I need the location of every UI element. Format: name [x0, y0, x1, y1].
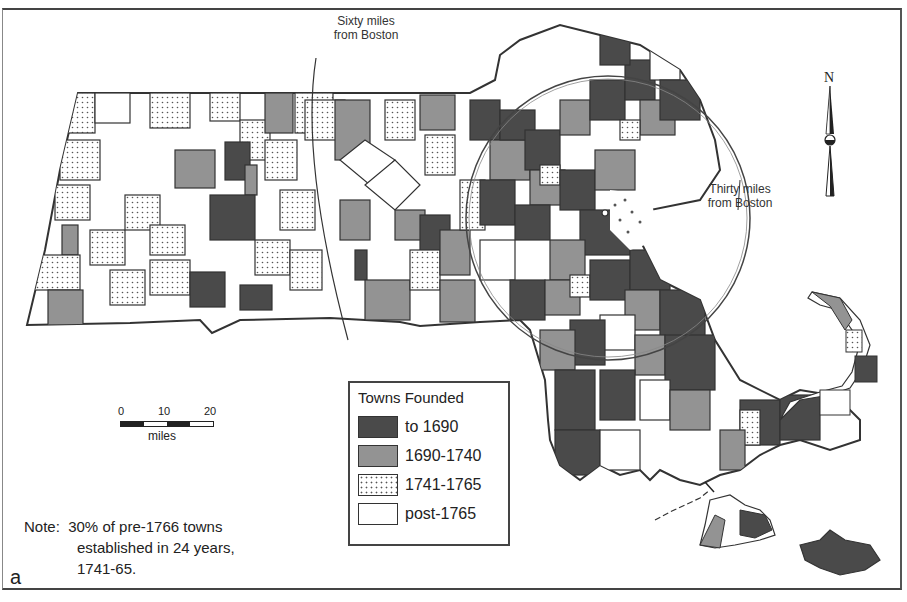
legend-swatch-mid [358, 445, 398, 467]
thirty-miles-label: Thirty miles from Boston [694, 182, 786, 210]
sixty-miles-line1: Sixty miles [316, 14, 416, 28]
scale-bar: 0 10 20 miles [118, 405, 218, 445]
note-line3: 1741-65. [24, 558, 235, 579]
legend-label: 1690-1740 [405, 447, 482, 465]
scale-tick-20: 20 [204, 405, 216, 417]
legend-label: to 1690 [405, 418, 458, 436]
legend-swatch-dotted [358, 474, 398, 496]
legend-item-1690-1740: 1690-1740 [358, 441, 500, 470]
legend: Towns Founded to 1690 1690-1740 1741-176… [348, 381, 510, 546]
thirty-miles-line1: Thirty miles [694, 182, 786, 196]
legend-label: 1741-1765 [405, 476, 482, 494]
sixty-miles-line2: from Boston [316, 28, 416, 42]
scale-bar-graphic [120, 421, 214, 427]
note-line1: Note: 30% of pre-1766 towns [24, 516, 235, 537]
north-arrow-icon [818, 86, 848, 216]
north-label: N [824, 70, 834, 86]
scale-tick-10: 10 [158, 405, 170, 417]
legend-swatch-blank [358, 503, 398, 525]
note: Note: 30% of pre-1766 towns established … [24, 516, 235, 579]
legend-label: post-1765 [405, 505, 476, 523]
legend-item-to-1690: to 1690 [358, 412, 500, 441]
legend-item-1741-1765: 1741-1765 [358, 470, 500, 499]
panel-letter: a [10, 566, 21, 589]
scale-tick-0: 0 [118, 405, 124, 417]
sixty-miles-label: Sixty miles from Boston [316, 14, 416, 42]
thirty-miles-line2: from Boston [694, 196, 786, 210]
scale-units: miles [148, 429, 176, 443]
note-line2: established in 24 years, [24, 537, 235, 558]
north-arrow: N [818, 70, 848, 200]
legend-item-post-1765: post-1765 [358, 499, 500, 528]
legend-title: Towns Founded [358, 389, 500, 406]
legend-swatch-dark [358, 416, 398, 438]
